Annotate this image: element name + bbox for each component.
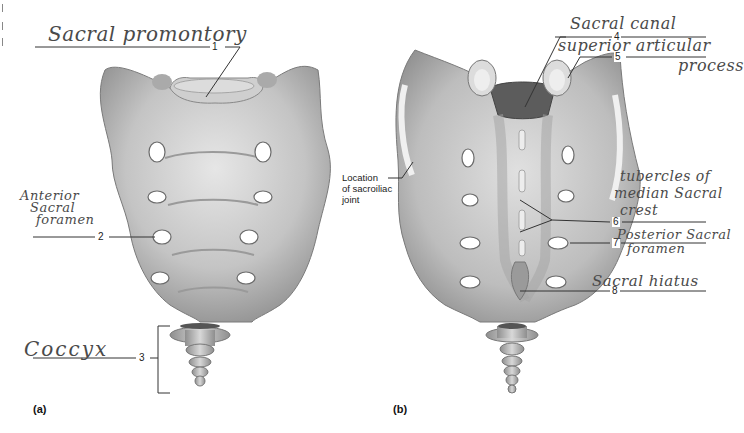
panel-label-a: (a) — [33, 403, 46, 415]
sacrum-anterior-body — [100, 66, 330, 322]
label-number-6: 6 — [612, 217, 620, 227]
label-line: process — [558, 56, 744, 76]
margin-mark — [2, 22, 3, 30]
label-line: Posterior Sacral — [617, 228, 731, 242]
label-superior-articular-process: superior articular process — [558, 36, 744, 76]
label-line: joint — [342, 194, 392, 205]
label-line: foramen — [20, 214, 95, 226]
label-anterior-sacral-foramen: Anterior Sacral foramen — [20, 190, 95, 226]
label-sacral-hiatus: Sacral hiatus — [592, 272, 699, 290]
margin-mark — [2, 4, 3, 12]
label-number-3: 3 — [138, 353, 146, 363]
label-line: of sacroiliac — [342, 183, 392, 194]
label-tubercles-median-sacral-crest: tubercles of median Sacral crest — [620, 168, 723, 219]
coccyx-anterior — [170, 323, 230, 386]
label-line: Location — [342, 172, 392, 183]
panel-label-b: (b) — [393, 403, 407, 415]
sacrum-anterior-view — [100, 66, 330, 386]
label-sacroiliac-joint: Location of sacroiliac joint — [342, 172, 392, 205]
label-number-2: 2 — [97, 232, 105, 242]
label-sacral-promontory: Sacral promontory — [48, 22, 247, 46]
coccyx-posterior — [486, 323, 538, 393]
label-line: superior articular — [558, 36, 744, 56]
label-line: crest — [620, 202, 723, 219]
label-sacral-canal: Sacral canal — [570, 14, 676, 33]
margin-mark — [2, 38, 3, 46]
label-coccyx: Coccyx — [24, 337, 108, 361]
label-line: tubercles of — [620, 168, 723, 185]
label-line: median Sacral — [614, 185, 723, 202]
label-posterior-sacral-foramen: Posterior Sacral foramen — [617, 228, 731, 256]
label-line: foramen — [617, 242, 731, 256]
